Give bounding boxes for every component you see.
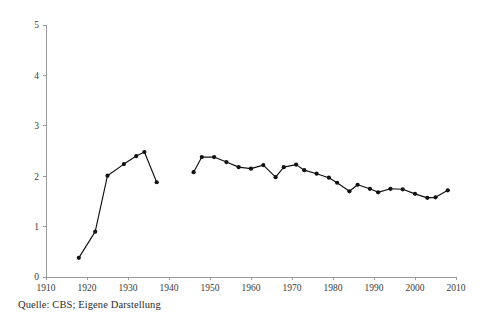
data-point <box>335 181 339 185</box>
data-series-group <box>77 150 450 260</box>
x-axis-tick-label: 1950 <box>201 283 220 293</box>
data-point <box>192 170 196 174</box>
data-point <box>433 195 437 199</box>
x-axis-tick-label: 2010 <box>447 283 466 293</box>
x-axis-tick-label: 1920 <box>78 283 97 293</box>
data-point <box>388 187 392 191</box>
x-axis-tick-label: 1930 <box>119 283 138 293</box>
data-point <box>142 150 146 154</box>
data-point <box>237 165 241 169</box>
data-point <box>212 155 216 159</box>
data-point <box>294 163 298 167</box>
data-point <box>77 256 81 260</box>
y-axis-tick-label: 4 <box>34 71 39 81</box>
data-point <box>261 163 265 167</box>
data-point <box>274 175 278 179</box>
y-axis-tick-label: 0 <box>34 272 39 282</box>
data-point <box>327 176 331 180</box>
data-point <box>356 183 360 187</box>
x-axis-tick-label: 1910 <box>37 283 56 293</box>
data-point <box>315 172 319 176</box>
data-point <box>413 192 417 196</box>
data-point <box>347 189 351 193</box>
y-axis: 012345 <box>34 20 46 282</box>
data-point <box>93 230 97 234</box>
data-point <box>224 160 228 164</box>
data-point <box>425 196 429 200</box>
chart-container: 012345 191019201930194019501960197019801… <box>0 0 485 326</box>
y-axis-tick-label: 5 <box>34 20 39 30</box>
data-point <box>200 155 204 159</box>
x-axis-tick-label: 2000 <box>406 283 425 293</box>
data-point <box>401 187 405 191</box>
data-point <box>105 174 109 178</box>
x-axis-tick-label: 1940 <box>160 283 179 293</box>
x-axis-tick-label: 1960 <box>242 283 261 293</box>
y-axis-tick-label: 2 <box>34 172 39 182</box>
x-axis-tick-label: 1980 <box>324 283 343 293</box>
data-line <box>194 157 448 198</box>
data-point <box>376 190 380 194</box>
data-point <box>282 165 286 169</box>
x-axis: 1910192019301940195019601970198019902000… <box>37 277 466 293</box>
data-point <box>155 180 159 184</box>
x-axis-tick-label: 1990 <box>365 283 384 293</box>
data-point <box>249 167 253 171</box>
data-point <box>368 187 372 191</box>
data-point <box>122 162 126 166</box>
data-point <box>446 188 450 192</box>
line-chart: 012345 191019201930194019501960197019801… <box>0 0 485 326</box>
x-axis-tick-label: 1970 <box>283 283 302 293</box>
data-point <box>134 154 138 158</box>
y-axis-tick-label: 1 <box>34 222 39 232</box>
source-caption: Quelle: CBS; Eigene Darstellung <box>18 299 161 310</box>
y-axis-tick-label: 3 <box>34 121 39 131</box>
data-point <box>302 168 306 172</box>
data-line <box>79 152 157 258</box>
